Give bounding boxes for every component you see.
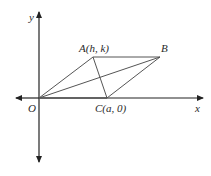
x-axis-label: x (194, 102, 200, 114)
rhombus-diagram: y x O A(h, k) B C(a, 0) (0, 0, 211, 176)
point-O-label: O (28, 102, 36, 114)
y-axis-label: y (28, 11, 34, 23)
point-A-label: A(h, k) (78, 42, 109, 55)
point-B-label: B (161, 42, 168, 54)
point-C-label: C(a, 0) (95, 102, 127, 115)
rhombus (39, 57, 160, 98)
axes (16, 12, 203, 162)
segment-BC (107, 57, 160, 98)
diagonal-AC (93, 57, 107, 98)
segment-OA (39, 57, 93, 98)
